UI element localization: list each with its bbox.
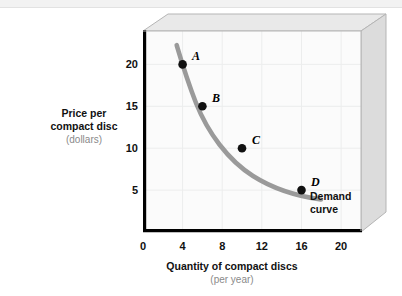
data-point-b bbox=[198, 102, 207, 111]
data-point-label-a: A bbox=[192, 50, 200, 62]
data-point-label-b: B bbox=[212, 92, 220, 104]
data-point-label-c: C bbox=[252, 134, 260, 146]
x-axis-title-main: Quantity of compact discs bbox=[120, 260, 344, 273]
x-tick-label-0: 0 bbox=[131, 241, 155, 252]
data-point-label-d: D bbox=[311, 176, 320, 188]
x-tick-label-8: 8 bbox=[210, 241, 234, 252]
x-tick-label-4: 4 bbox=[171, 241, 195, 252]
demand-curve-label-line2: curve bbox=[310, 203, 370, 216]
x-tick-label-20: 20 bbox=[329, 241, 353, 252]
y-axis-title-line2: compact disc bbox=[36, 120, 132, 133]
y-axis-title-units: (dollars) bbox=[36, 133, 132, 146]
box-top-face bbox=[143, 14, 386, 31]
x-tick-label-12: 12 bbox=[250, 241, 274, 252]
demand-curve-figure: 20 15 10 5 0 4 8 12 16 20 Price per comp… bbox=[0, 0, 402, 296]
y-axis-title-line1: Price per bbox=[36, 107, 132, 120]
data-point-a bbox=[178, 60, 187, 69]
x-axis-title: Quantity of compact discs (per year) bbox=[120, 260, 344, 286]
y-tick-label-20: 20 bbox=[112, 59, 138, 70]
demand-curve-label-line1: Demand bbox=[310, 190, 370, 203]
data-point-c bbox=[238, 144, 247, 153]
data-point-d bbox=[297, 186, 306, 195]
y-axis-title: Price per compact disc (dollars) bbox=[36, 107, 132, 146]
x-axis-title-units: (per year) bbox=[120, 273, 344, 286]
y-tick-label-5: 5 bbox=[112, 185, 138, 196]
x-tick-label-16: 16 bbox=[290, 241, 314, 252]
demand-curve-label: Demand curve bbox=[310, 190, 370, 215]
